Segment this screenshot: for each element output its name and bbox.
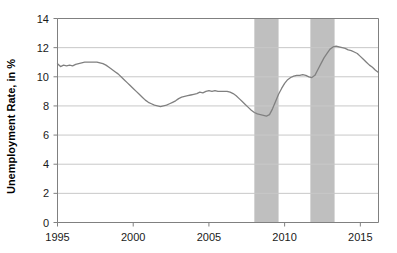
recession-band-1 xyxy=(254,19,278,223)
recession-bands xyxy=(254,19,334,223)
plot-area xyxy=(0,0,397,253)
unemployment-rate-chart: Unemployment Rate, in % 02468101214 1995… xyxy=(0,0,397,253)
